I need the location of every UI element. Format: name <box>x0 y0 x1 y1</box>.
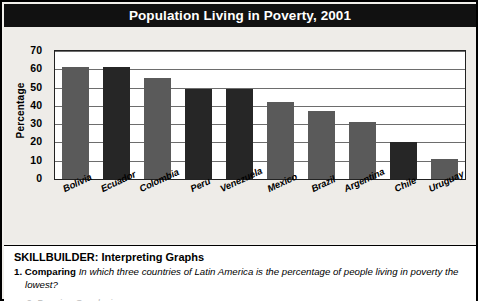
bar-slot <box>178 51 219 179</box>
chart-title-bar: Population Living in Poverty, 2001 <box>4 4 476 27</box>
y-tick-label: 50 <box>8 81 42 93</box>
x-label-slot: Bolivia <box>54 180 95 236</box>
y-tick-label: 20 <box>8 135 42 147</box>
bar-mexico <box>267 102 294 179</box>
chart-panel: Percentage 010203040506070 BoliviaEcuado… <box>4 27 476 243</box>
x-label-slot: Brazil <box>300 180 341 236</box>
question-number: 1. <box>14 266 22 277</box>
bar-colombia <box>144 78 171 179</box>
y-tick-label: 60 <box>8 62 42 74</box>
skillbuilder-box: SKILLBUILDER: Interpreting Graphs 1. Com… <box>4 245 476 301</box>
bar-slot <box>219 51 260 179</box>
clipped-next-question: 2. Drawing Conclusions <box>26 297 406 301</box>
bar-slot <box>137 51 178 179</box>
x-label-slot: Argentina <box>341 180 382 236</box>
bar-bolivia <box>62 67 89 179</box>
y-tick-label: 40 <box>8 99 42 111</box>
x-label-slot: Venezuela <box>218 180 259 236</box>
bar-ecuador <box>103 67 130 179</box>
x-label-slot: Chile <box>382 180 423 236</box>
bar-slot <box>424 51 465 179</box>
bar-brazil <box>308 111 335 179</box>
y-tick-label: 0 <box>8 172 42 184</box>
bar-peru <box>185 89 212 179</box>
x-axis-tick-labels: BoliviaEcuadorColombiaPeruVenezuelaMexic… <box>54 180 464 236</box>
y-tick-label: 30 <box>8 117 42 129</box>
x-label-slot: Ecuador <box>95 180 136 236</box>
skillbuilder-heading: SKILLBUILDER: Interpreting Graphs <box>14 251 466 263</box>
bar-slot <box>301 51 342 179</box>
bar-slot <box>55 51 96 179</box>
question-text: In which three countries of Latin Americ… <box>25 266 458 290</box>
bar-slot <box>260 51 301 179</box>
bar-series <box>55 51 465 179</box>
skillbuilder-question: 1. Comparing In which three countries of… <box>14 266 466 291</box>
bar-slot <box>96 51 137 179</box>
y-tick-label: 10 <box>8 154 42 166</box>
x-label-slot: Peru <box>177 180 218 236</box>
bar-slot <box>342 51 383 179</box>
poverty-chart-figure: Population Living in Poverty, 2001 Perce… <box>0 0 478 301</box>
question-type: Comparing <box>25 266 76 277</box>
bar-venezuela <box>226 89 253 179</box>
x-label-slot: Uruguay <box>423 180 464 236</box>
y-tick-label: 70 <box>8 44 42 56</box>
plot-area <box>54 50 466 180</box>
x-label-slot: Colombia <box>136 180 177 236</box>
bar-slot <box>383 51 424 179</box>
page-title: Population Living in Poverty, 2001 <box>129 8 351 23</box>
x-label-slot: Mexico <box>259 180 300 236</box>
